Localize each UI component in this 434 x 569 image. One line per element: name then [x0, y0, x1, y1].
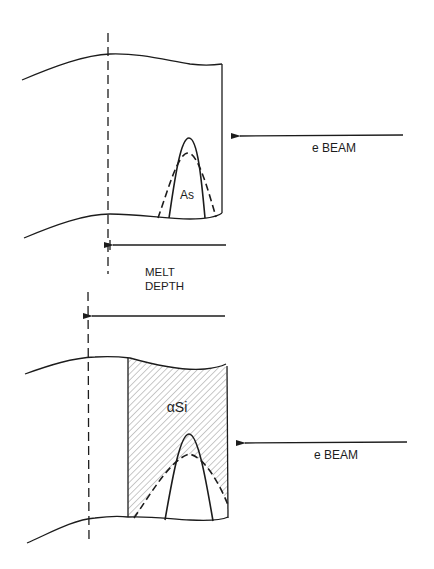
bottom-panel: αSi e BEAM: [25, 292, 407, 543]
e-beam-label: e BEAM: [312, 141, 356, 155]
top-panel: As e BEAM MELT DEPTH: [22, 33, 403, 292]
melt-depth-label-line1: MELT: [145, 266, 175, 278]
region-label-as: As: [180, 188, 194, 202]
dashed-profile-curve: [158, 153, 216, 218]
diagram-canvas: As e BEAM MELT DEPTH αSi: [0, 0, 434, 569]
solid-profile-curve: [169, 138, 205, 218]
e-beam-label: e BEAM: [314, 448, 358, 462]
region-label-alpha-si: αSi: [167, 399, 188, 415]
sample-top-surface: [22, 54, 222, 80]
e-beam-arrow: [240, 135, 403, 136]
melt-depth-reference-line: [88, 292, 89, 543]
sample-bottom-surface: [27, 516, 228, 543]
sample-bottom-surface: [24, 213, 222, 238]
e-beam-arrow: [245, 442, 407, 443]
melt-depth-label-line2: DEPTH: [145, 280, 184, 292]
